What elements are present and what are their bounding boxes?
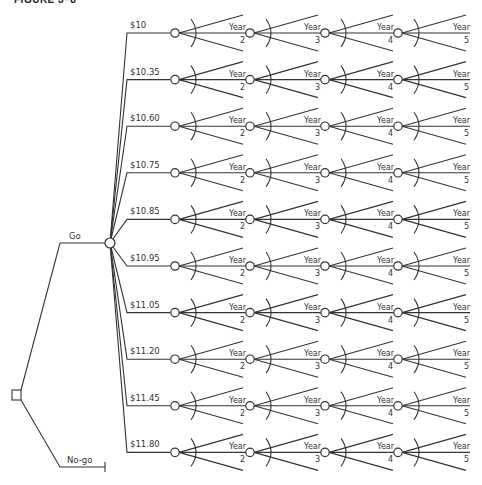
decision-node-square <box>12 390 21 400</box>
year-label: Year <box>303 70 322 79</box>
year-branch-lower <box>254 359 318 377</box>
chance-node <box>246 29 254 37</box>
year-branch-lower <box>402 266 466 284</box>
chance-node <box>394 215 402 223</box>
year-number: 3 <box>315 83 320 92</box>
chance-node <box>171 262 179 270</box>
year-branch-lower <box>179 313 243 331</box>
year-label: Year <box>452 396 471 405</box>
year-branch-lower <box>254 313 318 331</box>
year-label: Year <box>376 116 395 125</box>
chance-node <box>321 355 329 363</box>
price-branch-line <box>110 243 170 406</box>
year-label: Year <box>228 396 247 405</box>
year-number: 3 <box>315 362 320 371</box>
year-label: Year <box>228 163 247 172</box>
year-branch-lower <box>402 173 466 191</box>
year-branch-lower <box>179 266 243 284</box>
year-number: 5 <box>464 129 469 138</box>
chance-node <box>394 262 402 270</box>
year-label: Year <box>228 303 247 312</box>
chance-node <box>394 169 402 177</box>
chance-node <box>321 122 329 130</box>
year-branch-lower <box>329 173 393 191</box>
year-branch-lower <box>329 266 393 284</box>
chance-node <box>171 448 179 456</box>
year-branch-lower <box>329 313 393 331</box>
year-number: 2 <box>240 129 245 138</box>
chance-node <box>171 29 179 37</box>
year-label: Year <box>303 23 322 32</box>
year-branch-lower <box>254 173 318 191</box>
year-branch-lower <box>329 33 393 51</box>
year-branch-lower <box>179 219 243 237</box>
year-branch-lower <box>402 219 466 237</box>
chance-node <box>321 29 329 37</box>
year-number: 3 <box>315 269 320 278</box>
chance-node <box>246 308 254 316</box>
chance-node <box>246 355 254 363</box>
go-chance-node <box>105 238 115 248</box>
year-branch-lower <box>329 80 393 98</box>
year-label: Year <box>376 349 395 358</box>
price-branch-line <box>110 219 170 243</box>
year-label: Year <box>228 23 247 32</box>
price-branch-line <box>110 126 170 243</box>
year-number: 5 <box>464 222 469 231</box>
year-label: Year <box>303 163 322 172</box>
chance-node <box>321 75 329 83</box>
year-branch-lower <box>329 359 393 377</box>
year-number: 4 <box>388 83 393 92</box>
year-label: Year <box>228 256 247 265</box>
nogo-label: No-go <box>67 455 92 465</box>
year-number: 4 <box>388 129 393 138</box>
year-number: 4 <box>388 362 393 371</box>
year-number: 2 <box>240 455 245 464</box>
chance-node <box>394 29 402 37</box>
chance-node <box>394 402 402 410</box>
year-branch-lower <box>402 313 466 331</box>
year-number: 5 <box>464 176 469 185</box>
go-label: Go <box>69 231 81 241</box>
year-label: Year <box>228 209 247 218</box>
year-branch-lower <box>254 33 318 51</box>
year-label: Year <box>303 303 322 312</box>
chance-node <box>321 262 329 270</box>
year-number: 5 <box>464 83 469 92</box>
year-label: Year <box>228 70 247 79</box>
year-number: 2 <box>240 269 245 278</box>
price-label: $11.45 <box>130 393 160 403</box>
year-branch-lower <box>329 406 393 424</box>
year-branch-lower <box>179 126 243 144</box>
price-label: $10.85 <box>130 206 160 216</box>
year-branch-lower <box>179 80 243 98</box>
chance-node <box>394 355 402 363</box>
year-branch-lower <box>329 452 393 470</box>
chance-node <box>321 215 329 223</box>
chance-node <box>171 75 179 83</box>
year-number: 2 <box>240 83 245 92</box>
year-number: 5 <box>464 455 469 464</box>
year-branch-lower <box>254 452 318 470</box>
chance-node <box>321 169 329 177</box>
decision-tree-diagram: Go No-go $10Year2Year3Year4Year5$10.35Ye… <box>0 0 482 485</box>
year-label: Year <box>452 303 471 312</box>
price-row: $10.95Year2Year3Year4Year5 <box>110 243 471 284</box>
chance-node <box>394 448 402 456</box>
year-number: 2 <box>240 362 245 371</box>
year-label: Year <box>228 349 247 358</box>
price-label: $10.60 <box>130 113 160 123</box>
year-label: Year <box>303 396 322 405</box>
year-branch-lower <box>254 80 318 98</box>
year-number: 2 <box>240 316 245 325</box>
year-label: Year <box>303 209 322 218</box>
chance-node <box>246 448 254 456</box>
chance-node <box>394 122 402 130</box>
price-label: $11.05 <box>130 300 160 310</box>
chance-node <box>246 262 254 270</box>
chance-node <box>171 169 179 177</box>
year-branch-lower <box>179 452 243 470</box>
go-branch-line <box>21 243 105 390</box>
year-number: 5 <box>464 36 469 45</box>
year-label: Year <box>452 163 471 172</box>
